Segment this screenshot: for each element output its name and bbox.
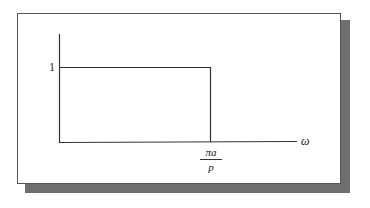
- cutoff-label: πa p: [200, 146, 222, 173]
- plot-lines: [0, 0, 370, 208]
- cutoff-numerator: πa: [200, 146, 222, 160]
- y-tick-label: 1: [49, 61, 55, 73]
- x-axis: [59, 142, 297, 143]
- cutoff-denominator: p: [200, 160, 222, 173]
- x-axis-label: ω: [301, 135, 309, 147]
